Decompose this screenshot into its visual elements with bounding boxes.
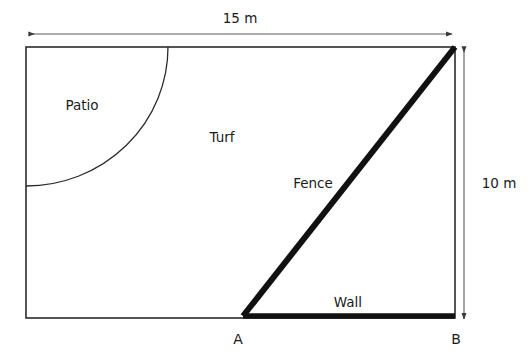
patio-label: Patio <box>65 97 98 113</box>
point-b-label: B <box>451 331 461 347</box>
fence-label: Fence <box>293 175 333 191</box>
turf-label: Turf <box>208 129 235 145</box>
width-dimension-label: 15 m <box>223 10 258 26</box>
garden-diagram: Patio Turf Fence Wall A B 15 m 10 m <box>0 0 531 364</box>
height-dimension-label: 10 m <box>482 175 517 191</box>
wall-label: Wall <box>334 294 362 310</box>
garden-figure: Patio Turf Fence Wall A B 15 m 10 m <box>0 0 531 364</box>
point-a-label: A <box>233 331 243 347</box>
garden-boundary-rectangle <box>26 47 455 318</box>
